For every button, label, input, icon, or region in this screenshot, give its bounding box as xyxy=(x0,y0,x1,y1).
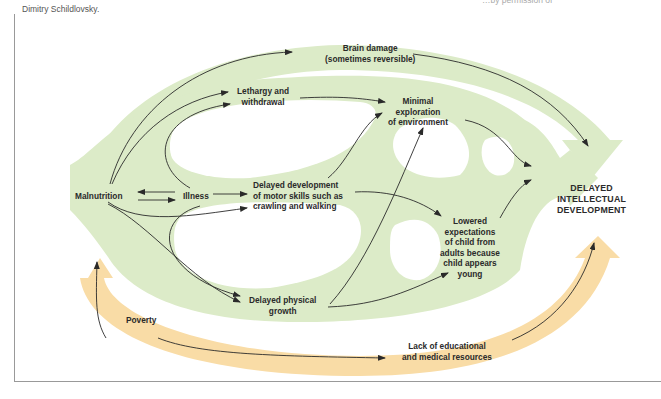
motor-line-3: crawling and walking xyxy=(253,201,343,212)
green-pathway-band xyxy=(70,45,623,322)
brain-damage-line-2: (sometimes reversible) xyxy=(325,54,415,65)
malnutrition-label: Malnutrition xyxy=(75,191,122,201)
node-delayed-intellectual-development: DELAYED INTELLECTUAL DEVELOPMENT xyxy=(557,183,626,216)
lack-line-2: and medical resources xyxy=(402,352,492,363)
poverty-label: Poverty xyxy=(126,315,156,325)
lowered-line-6: young xyxy=(440,269,500,280)
outcome-line-1: DELAYED xyxy=(557,183,626,194)
node-lowered-expectations: Lowered expectations of child from adult… xyxy=(440,216,500,279)
motor-line-2: of motor skills such as xyxy=(253,191,343,202)
lethargy-line-1: Lethargy and xyxy=(237,86,289,97)
node-brain-damage: Brain damage (sometimes reversible) xyxy=(325,43,415,64)
node-illness: Illness xyxy=(183,191,209,202)
node-lack-of-resources: Lack of educational and medical resource… xyxy=(402,341,492,362)
lowered-line-4: adults because xyxy=(440,248,500,259)
lack-line-1: Lack of educational xyxy=(402,341,492,352)
motor-line-1: Delayed development xyxy=(253,180,343,191)
outcome-line-2: INTELLECTUAL xyxy=(557,194,626,205)
physical-line-2: growth xyxy=(249,306,316,317)
outcome-line-3: DEVELOPMENT xyxy=(557,205,626,216)
minimal-line-3: of environment xyxy=(388,117,448,128)
node-lethargy: Lethargy and withdrawal xyxy=(237,86,289,107)
physical-line-1: Delayed physical xyxy=(249,295,316,306)
brain-damage-line-1: Brain damage xyxy=(325,43,415,54)
node-poverty: Poverty xyxy=(126,315,156,326)
lowered-line-1: Lowered xyxy=(440,216,500,227)
node-delayed-physical-growth: Delayed physical growth xyxy=(249,295,316,316)
minimal-line-1: Minimal xyxy=(388,96,448,107)
lethargy-line-2: withdrawal xyxy=(237,97,289,108)
lowered-line-3: of child from xyxy=(440,237,500,248)
node-minimal-exploration: Minimal exploration of environment xyxy=(388,96,448,128)
illness-label: Illness xyxy=(183,191,209,201)
node-motor-skills: Delayed development of motor skills such… xyxy=(253,180,343,212)
node-malnutrition: Malnutrition xyxy=(75,191,122,202)
lowered-line-5: child appears xyxy=(440,258,500,269)
lowered-line-2: expectations xyxy=(440,227,500,238)
minimal-line-2: exploration xyxy=(388,107,448,118)
